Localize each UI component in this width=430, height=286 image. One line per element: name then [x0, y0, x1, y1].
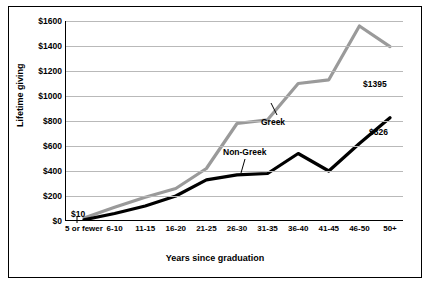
- x-axis-tick-label: 6-10: [107, 224, 123, 233]
- x-axis-tick-label: 46-50: [349, 224, 369, 233]
- y-axis-tick-label: $200: [43, 191, 62, 201]
- greek-series-label: Greek: [261, 117, 285, 127]
- gridline: [66, 21, 403, 22]
- y-axis-tick-label: $800: [43, 116, 62, 126]
- gridline: [66, 121, 403, 122]
- x-axis-title: Years since graduation: [9, 253, 421, 263]
- y-axis-tick-label: $1000: [38, 91, 62, 101]
- gridline: [66, 96, 403, 97]
- x-axis-tick-label: 21-25: [196, 224, 216, 233]
- x-axis-tick-label: 50+: [383, 224, 397, 233]
- y-axis-tick-label: $1200: [38, 66, 62, 76]
- gridline: [66, 171, 403, 172]
- series-line-non-greek: [84, 118, 390, 220]
- greek-end-label: $1395: [363, 79, 387, 89]
- gridline: [66, 71, 403, 72]
- y-axis-tick-label: $600: [43, 141, 62, 151]
- y-axis-tick-label: $1400: [38, 41, 62, 51]
- x-axis-tick-label: 5 or fewer: [65, 224, 103, 233]
- start-value-label: $10: [71, 209, 85, 219]
- x-axis-tick-label: 26-30: [227, 224, 247, 233]
- y-axis-title: Lifetime giving: [15, 63, 25, 127]
- y-axis-tick-label: $0: [53, 216, 62, 226]
- x-axis-tick-label: 31-35: [257, 224, 277, 233]
- nongreek-end-label: $826: [369, 127, 388, 137]
- nongreek-series-label: Non-Greek: [223, 147, 266, 157]
- y-axis-tick-label: $1600: [38, 16, 62, 26]
- gridline: [66, 46, 403, 47]
- plot-area: $0$200$400$600$800$1000$1200$1400$1600 5…: [65, 21, 403, 221]
- y-axis-tick-label: $400: [43, 166, 62, 176]
- x-axis-tick-label: 36-40: [288, 224, 308, 233]
- x-axis-tick-label: 16-20: [166, 224, 186, 233]
- x-axis-tick-label: 11-15: [135, 224, 155, 233]
- gridline: [66, 196, 403, 197]
- x-axis-tick-label: 41-45: [319, 224, 339, 233]
- chart-container: Lifetime giving $0$200$400$600$800$1000$…: [8, 6, 422, 278]
